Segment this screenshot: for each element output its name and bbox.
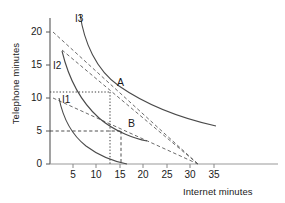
y-axis-ticks xyxy=(46,32,50,164)
indifference-curve-i3 xyxy=(80,14,216,126)
x-tick-label-30: 30 xyxy=(181,169,199,180)
curve-label-i1: I1 xyxy=(62,94,70,105)
curve-label-i2: I2 xyxy=(53,60,61,71)
x-axis-ticks xyxy=(73,164,214,168)
x-tick-label-20: 20 xyxy=(134,169,152,180)
x-tick-label-25: 25 xyxy=(158,169,176,180)
point-label-a: A xyxy=(117,76,124,88)
x-tick-label-35: 35 xyxy=(205,169,223,180)
curve-label-i3: I3 xyxy=(75,13,83,24)
x-tick-label-10: 10 xyxy=(87,169,105,180)
x-tick-label-5: 5 xyxy=(64,169,82,180)
budget-line-1 xyxy=(53,32,198,164)
chart-figure: Telephone minutes Internet minutes 20 15… xyxy=(0,0,285,203)
budget-lines xyxy=(53,32,198,164)
y-tick-label-5: 5 xyxy=(24,125,42,136)
y-axis-title: Telephone minutes xyxy=(10,38,21,130)
y-tick-label-10: 10 xyxy=(24,92,42,103)
point-label-b: B xyxy=(128,117,135,129)
y-tick-label-20: 20 xyxy=(24,26,42,37)
y-tick-label-15: 15 xyxy=(24,59,42,70)
guide-lines-point-a xyxy=(50,92,110,164)
x-tick-label-15: 15 xyxy=(111,169,129,180)
y-tick-label-0: 0 xyxy=(24,158,42,169)
x-axis-title: Internet minutes xyxy=(183,186,253,197)
budget-line-3 xyxy=(62,50,198,164)
